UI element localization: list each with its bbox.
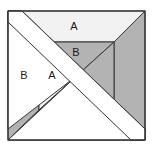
label-left-trapezoid: B xyxy=(20,69,27,81)
label-inner-left-triangle: A xyxy=(48,69,56,81)
tangram-figure: A B B A xyxy=(0,0,153,151)
label-inner-top-triangle: B xyxy=(72,46,79,58)
label-top-trapezoid: A xyxy=(70,20,78,32)
tangram-diagram: A B B A xyxy=(0,0,153,151)
